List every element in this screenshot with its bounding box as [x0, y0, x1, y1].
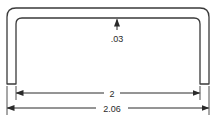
outer-width-label: 2.06	[103, 104, 121, 114]
staple-outline	[7, 8, 209, 84]
staple-drawing: .03 2 2.06	[0, 0, 216, 124]
inner-width-label: 2	[109, 89, 114, 99]
thickness-label: .03	[111, 34, 124, 44]
